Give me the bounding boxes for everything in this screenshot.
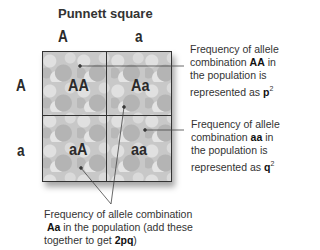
annotation-Aa: Frequency of allele combination Aa in th… xyxy=(44,208,193,247)
annotation-aa: Frequency of allele combination aa in th… xyxy=(191,118,280,174)
annotation-AA: Frequency of allele combination AA in th… xyxy=(190,43,279,99)
